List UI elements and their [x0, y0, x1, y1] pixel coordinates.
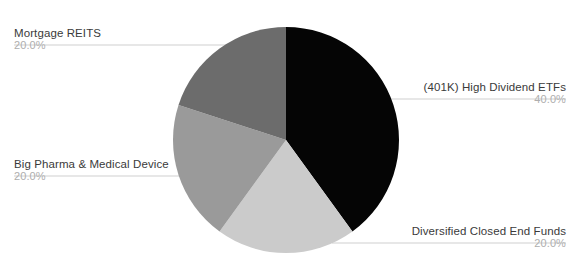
- label-mortgage-reits-value: 20.0%: [14, 40, 101, 52]
- label-closed-end-funds-value: 20.0%: [412, 238, 566, 250]
- label-big-pharma: Big Pharma & Medical Device 20.0%: [14, 158, 169, 183]
- label-big-pharma-name: Big Pharma & Medical Device: [14, 158, 169, 170]
- pie-chart-container: Mortgage REITS 20.0% Big Pharma & Medica…: [0, 0, 579, 272]
- label-mortgage-reits-name: Mortgage REITS: [14, 27, 101, 39]
- label-high-dividend-etfs-value: 40.0%: [424, 94, 566, 106]
- label-high-dividend-etfs-name: (401K) High Dividend ETFs: [424, 81, 566, 93]
- label-high-dividend-etfs: (401K) High Dividend ETFs 40.0%: [424, 81, 566, 106]
- label-closed-end-funds: Diversified Closed End Funds 20.0%: [412, 225, 566, 250]
- label-mortgage-reits: Mortgage REITS 20.0%: [14, 27, 101, 52]
- label-big-pharma-value: 20.0%: [14, 171, 169, 183]
- label-closed-end-funds-name: Diversified Closed End Funds: [412, 225, 566, 237]
